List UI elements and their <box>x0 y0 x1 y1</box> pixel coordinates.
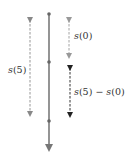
s5-label: s(5) <box>8 64 26 75</box>
diff-label: s(5) − s(0) <box>74 86 125 97</box>
main-path-line <box>47 12 51 148</box>
point-t0 <box>47 12 51 16</box>
s0-label: s(0) <box>74 30 92 41</box>
point-t5 <box>47 119 51 123</box>
displacement-diagram: s(5) s(0) s(5) − s(0) <box>0 0 129 160</box>
point-mid <box>47 60 51 64</box>
